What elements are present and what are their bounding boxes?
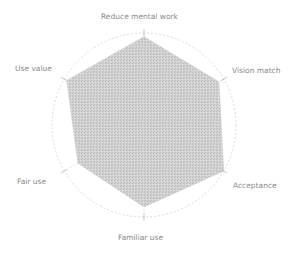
label-familiar-use: Familiar use (118, 234, 163, 242)
label-reduce-mental-work: Reduce mental work (101, 13, 178, 21)
label-acceptance: Acceptance (233, 182, 277, 190)
label-use-value: Use value (15, 65, 52, 73)
label-fair-use: Fair use (17, 178, 46, 186)
radar-chart (0, 0, 296, 255)
label-vision-match: Vision match (232, 67, 281, 75)
data-polygon (67, 37, 224, 207)
